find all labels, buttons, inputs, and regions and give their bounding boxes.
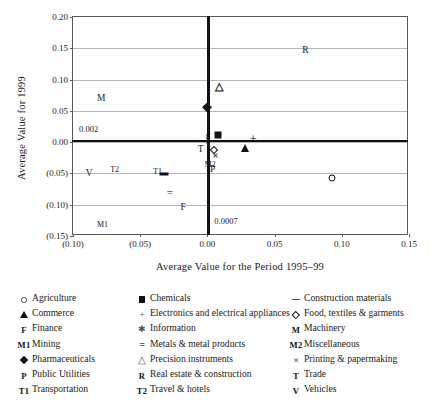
x-axis-tick-label: 0.15 <box>401 239 417 249</box>
legend-item: VVehicles <box>288 383 438 398</box>
legend-item-label: Transportation <box>32 383 88 394</box>
legend-item: △Precision instruments <box>134 353 290 368</box>
letter-t-icon: T <box>288 370 304 382</box>
data-point-commerce <box>241 144 249 152</box>
legend-item-label: Information <box>150 322 196 333</box>
x-axis-tick-label: 0.10 <box>334 239 350 249</box>
y-axis-tick-mark <box>70 111 73 112</box>
data-point-finance: F <box>181 204 186 214</box>
letter-t1-icon: T1 <box>16 385 32 397</box>
legend-item: Commerce <box>16 307 134 322</box>
asterisk-icon: ✱ <box>134 324 150 336</box>
letter-m2-icon: M2 <box>288 339 304 351</box>
legend-item-label: Mining <box>32 338 60 349</box>
legend-item-label: Electronics and electrical appliances <box>150 307 290 318</box>
legend-item-label: Commerce <box>32 307 74 318</box>
letter-v-icon: V <box>288 385 304 397</box>
letter-f-icon: F <box>16 324 32 336</box>
legend-item: T1Transportation <box>16 383 134 398</box>
y-axis-tick-label: (0.05) <box>46 168 68 178</box>
legend-item: +Electronics and electrical appliances <box>134 307 290 322</box>
x-axis-title: Average Value for the Period 1995–99 <box>60 261 420 272</box>
legend-item: Pharmaceuticals <box>16 353 134 368</box>
vertical-reference-line <box>207 16 209 235</box>
legend-item-label: Real estate & construction <box>150 368 252 379</box>
y-axis-tick-mark <box>70 48 73 49</box>
y-axis-tick-mark <box>70 205 73 206</box>
scatter-plot-figure: Average Value for 1999 Average Value for… <box>0 0 438 405</box>
gridline-horizontal <box>73 142 407 143</box>
data-point-mining: M1 <box>97 221 108 229</box>
gridline-horizontal <box>73 205 407 206</box>
legend-item: ×Printing & papermaking <box>288 353 438 368</box>
x-cross-icon: × <box>288 354 304 366</box>
letter-r-icon: R <box>134 370 150 382</box>
data-point-transportation: T1 <box>153 168 162 176</box>
data-point-vehicles: V <box>86 169 93 179</box>
legend-item: M2Miscellaneous <box>288 338 438 353</box>
legend-item: Food, textiles & garments <box>288 307 438 322</box>
legend-item: T2Travel & hotels <box>134 383 290 398</box>
legend-item-label: Pharmaceuticals <box>32 353 95 364</box>
legend-item: MMachinery <box>288 322 438 337</box>
legend-item-label: Metals & metal products <box>150 338 245 349</box>
gridline-horizontal <box>73 80 407 81</box>
y-axis-title: Average Value for 1999 <box>14 38 28 218</box>
data-point-electronics-and-electrical-appliances: + <box>249 132 256 145</box>
legend-item: M1Mining <box>16 338 134 353</box>
horizontal-reference-line <box>72 140 408 142</box>
gridline-horizontal <box>73 173 407 174</box>
y-axis-tick-mark <box>70 142 73 143</box>
x-axis-tick-mark <box>73 234 74 237</box>
legend-item-label: Finance <box>32 322 62 333</box>
data-point-printing-papermaking-2: × <box>212 150 218 161</box>
legend: AgricultureCommerceFFinanceM1MiningPharm… <box>0 292 438 402</box>
legend-item: =Metals & metal products <box>134 338 290 353</box>
legend-item: RReal estate & construction <box>134 368 290 383</box>
legend-item-label: Machinery <box>304 322 346 333</box>
letter-p-icon: P <box>16 370 32 382</box>
legend-item-label: Chemicals <box>150 292 191 303</box>
legend-column-3: Construction materialsFood, textiles & g… <box>288 292 438 398</box>
legend-item: ✱Information <box>134 322 290 337</box>
diamond-filled-icon <box>16 354 32 366</box>
legend-column-2: Chemicals+Electronics and electrical app… <box>134 292 290 398</box>
legend-item: FFinance <box>16 322 134 337</box>
legend-item-label: Miscellaneous <box>304 338 359 349</box>
horizontal-line-value-annotation: 0.002 <box>79 124 98 134</box>
data-point-travel-hotels: T2 <box>110 166 119 174</box>
triangle-filled-icon <box>16 309 32 321</box>
y-axis-tick-mark <box>70 17 73 18</box>
x-axis-tick-label: (0.10) <box>62 239 84 249</box>
legend-item-label: Construction materials <box>304 292 391 303</box>
plot-frame: 0.200.150.100.050.00(0.05)(0.10)(0.15)(0… <box>72 16 408 235</box>
square-filled-icon <box>134 294 150 306</box>
y-axis-tick-mark <box>70 80 73 81</box>
y-axis-tick-mark <box>70 173 73 174</box>
y-axis-tick-label: 0.15 <box>52 43 68 53</box>
legend-item-label: Precision instruments <box>150 353 233 364</box>
data-point-trade: T <box>198 145 204 155</box>
y-axis-tick-label: 0.00 <box>52 137 68 147</box>
legend-item-label: Vehicles <box>304 383 337 394</box>
x-axis-tick-mark <box>342 234 343 237</box>
y-axis-tick-label: (0.10) <box>46 200 68 210</box>
data-point-public-utilities: P <box>210 165 215 175</box>
x-axis-tick-label: 0.05 <box>267 239 283 249</box>
legend-item-label: Printing & papermaking <box>304 353 397 364</box>
data-point-chemicals <box>215 131 222 138</box>
legend-item-label: Travel & hotels <box>150 383 210 394</box>
equals-icon: = <box>134 339 150 351</box>
gridline-horizontal <box>73 48 407 49</box>
legend-item-label: Food, textiles & garments <box>304 307 404 318</box>
legend-item: Agriculture <box>16 292 134 307</box>
y-axis-tick-label: 0.10 <box>52 75 68 85</box>
legend-item-label: Public Utilities <box>32 368 90 379</box>
circle-open-icon <box>16 294 32 306</box>
y-axis-tick-label: 0.05 <box>52 106 68 116</box>
legend-item-label: Trade <box>304 368 326 379</box>
x-axis-tick-mark <box>140 234 141 237</box>
legend-item: Chemicals <box>134 292 290 307</box>
x-axis-tick-mark <box>275 234 276 237</box>
legend-item: TTrade <box>288 368 438 383</box>
